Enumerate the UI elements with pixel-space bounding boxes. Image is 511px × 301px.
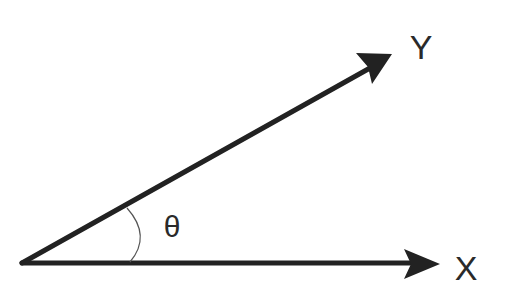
angle-arc: [127, 208, 140, 262]
vector-x: [22, 249, 440, 279]
angle-label: θ: [164, 210, 181, 243]
angle-diagram: θ Y X: [0, 0, 511, 301]
vector-x-label: X: [455, 249, 478, 287]
vector-y-label: Y: [410, 28, 433, 66]
vector-y: [22, 53, 392, 263]
y-arrowhead-icon: [356, 53, 392, 84]
